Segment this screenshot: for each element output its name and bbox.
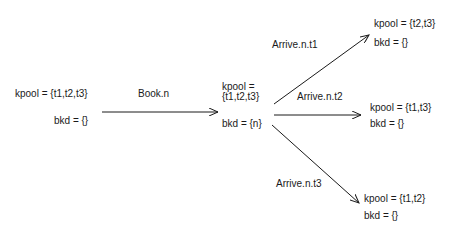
after-t3-kpool: kpool = {t1,t2} (364, 193, 425, 205)
arrow-arrive-t3 (272, 125, 359, 203)
after-t1-bkd: bkd = {} (374, 37, 408, 49)
after-t1-kpool: kpool = {t2,t3} (374, 18, 435, 30)
transition-book-label: Book.n (138, 88, 169, 100)
initial-bkd: bkd = {} (54, 115, 88, 127)
initial-kpool: kpool = {t1,t2,t3} (15, 88, 88, 100)
after-t3-bkd: bkd = {} (364, 210, 398, 222)
booked-kpool-value: {t1,t2,t3} (222, 91, 259, 103)
transition-arrive-t2-label: Arrive.n.t2 (297, 91, 343, 103)
after-t2-bkd: bkd = {} (370, 118, 404, 130)
transition-arrive-t3-label: Arrive.n.t3 (276, 178, 322, 190)
transition-arrive-t1-label: Arrive.n.t1 (272, 39, 318, 51)
booked-bkd: bkd = {n} (222, 118, 262, 130)
after-t2-kpool: kpool = {t1,t3} (370, 102, 431, 114)
